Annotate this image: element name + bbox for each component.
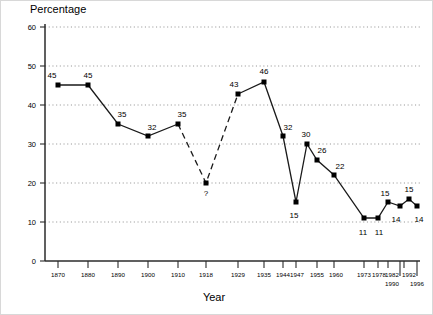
x-tick-label-1992: 1992: [402, 271, 416, 278]
data-point-1900[interactable]: [146, 134, 151, 139]
y-tick-label-30: 30: [28, 140, 36, 149]
data-point-1890[interactable]: [116, 122, 121, 127]
x-tick-label-1973: 1973: [357, 271, 371, 278]
data-label-1910: 35: [178, 110, 187, 119]
data-label-1880: 45: [84, 71, 93, 80]
x-tick-label-1918: 1918: [199, 271, 213, 278]
x-tick-label-1947: 1947: [290, 271, 304, 278]
x-tick-label-1960: 1960: [329, 271, 343, 278]
data-label-1900: 32: [148, 123, 157, 132]
x-tick-label-1870: 1870: [51, 271, 65, 278]
data-label-1973: 11: [359, 228, 368, 237]
data-point-1944[interactable]: [281, 134, 286, 139]
y-tick-label-60: 60: [28, 23, 36, 32]
data-label-1935: 46: [260, 67, 269, 76]
y-tick-label-40: 40: [28, 101, 36, 110]
data-point-1918[interactable]: [204, 181, 209, 186]
page-border: [1, 1, 433, 315]
data-point-1955[interactable]: [315, 158, 320, 163]
x-tick-label-1990: 1990: [385, 280, 399, 287]
x-tick-label-1890: 1890: [111, 271, 125, 278]
percentage-vs-year-line-chart: 60 50 40 30 20 10 0 Percentage: [0, 0, 433, 315]
data-label-1890: 35: [118, 110, 127, 119]
x-tick-label-1982: 1982: [385, 271, 399, 278]
data-label-1944: 32: [284, 123, 293, 132]
y-tick-label-50: 50: [28, 62, 36, 71]
data-point-1982[interactable]: [386, 200, 391, 205]
data-point-1978[interactable]: [376, 216, 381, 221]
data-point-1910[interactable]: [176, 122, 181, 127]
chart-container: 60 50 40 30 20 10 0 Percentage: [0, 0, 433, 315]
x-tick-label-1955: 1955: [310, 271, 324, 278]
data-label-1996: 14: [415, 215, 424, 224]
x-tick-label-1900: 1900: [141, 271, 155, 278]
data-label-1950: 30: [302, 130, 311, 139]
data-point-1947[interactable]: [294, 200, 299, 205]
data-label-1990: 14: [392, 215, 401, 224]
data-point-1935[interactable]: [262, 80, 267, 85]
y-axis-title: Percentage: [30, 3, 86, 15]
data-point-1992[interactable]: [407, 197, 412, 202]
x-tick-label-1996: 1996: [410, 280, 424, 287]
data-label-1918-unknown: ?: [204, 189, 209, 198]
data-label-1955: 26: [318, 146, 327, 155]
data-point-1990[interactable]: [398, 204, 403, 209]
data-point-1960[interactable]: [332, 173, 337, 178]
data-label-1978: 11: [375, 228, 384, 237]
data-label-1982: 15: [381, 189, 390, 198]
data-label-1870: 45: [48, 71, 57, 80]
data-point-1996[interactable]: [415, 204, 420, 209]
data-point-1950[interactable]: [305, 142, 310, 147]
x-tick-label-1929: 1929: [231, 271, 245, 278]
data-point-1929[interactable]: [236, 92, 241, 97]
y-tick-label-0: 0: [32, 257, 36, 266]
y-tick-label-10: 10: [28, 218, 36, 227]
x-tick-label-1935: 1935: [257, 271, 271, 278]
x-tick-label-1944: 1944: [276, 271, 290, 278]
data-point-1870[interactable]: [56, 83, 61, 88]
x-tick-label-1910: 1910: [171, 271, 185, 278]
x-axis-title: Year: [203, 291, 226, 303]
data-point-1973[interactable]: [362, 216, 367, 221]
data-point-1880[interactable]: [86, 83, 91, 88]
data-label-1947: 15: [290, 211, 299, 220]
data-label-1960: 22: [336, 162, 345, 171]
x-tick-label-1880: 1880: [81, 271, 95, 278]
data-label-1992: 15: [405, 185, 414, 194]
data-label-1929: 43: [230, 80, 239, 89]
y-tick-label-20: 20: [28, 179, 36, 188]
